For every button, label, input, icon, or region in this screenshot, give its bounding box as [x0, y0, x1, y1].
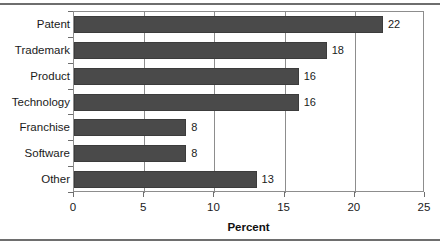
- bar-row: 16: [74, 64, 425, 90]
- category-label: Franchise: [0, 120, 70, 134]
- bar-row: 18: [74, 38, 425, 64]
- category-label: Technology: [0, 95, 70, 109]
- x-axis-tick: [143, 192, 144, 197]
- x-axis-title: Percent: [73, 220, 424, 234]
- x-axis-tick: [284, 192, 285, 197]
- bar-value-label: 16: [304, 67, 316, 85]
- x-axis-tick: [424, 192, 425, 197]
- x-axis-tick-label: 25: [404, 200, 440, 214]
- bar-row: 22: [74, 12, 425, 38]
- x-axis-tick-label: 0: [53, 200, 93, 214]
- x-axis-tick-label: 15: [264, 200, 304, 214]
- x-axis-tick-label: 10: [193, 200, 233, 214]
- bar-row: 13: [74, 167, 425, 193]
- bar-value-label: 13: [262, 170, 274, 188]
- category-label: Trademark: [0, 43, 70, 57]
- bar: [74, 171, 257, 188]
- category-label: Patent: [0, 17, 70, 31]
- category-label: Product: [0, 69, 70, 83]
- bar-series: 221816168813: [74, 12, 425, 193]
- plot-area: 221816168813: [73, 11, 424, 192]
- x-axis-tick-label: 5: [123, 200, 163, 214]
- x-axis-tick-label: 20: [334, 200, 374, 214]
- bar-row: 8: [74, 141, 425, 167]
- x-axis-tick: [213, 192, 214, 197]
- bar: [74, 42, 327, 59]
- bar: [74, 119, 186, 136]
- category-label: Other: [0, 172, 70, 186]
- x-axis-tick: [73, 192, 74, 197]
- bar-value-label: 22: [388, 15, 400, 33]
- bar-row: 8: [74, 115, 425, 141]
- bar: [74, 145, 186, 162]
- bar-value-label: 8: [191, 118, 197, 136]
- bar: [74, 94, 299, 111]
- bar-value-label: 18: [332, 41, 344, 59]
- bar-chart-figure: PatentTrademarkProductTechnologyFranchis…: [0, 0, 440, 244]
- bar-row: 16: [74, 90, 425, 116]
- top-divider-rule: [0, 3, 440, 5]
- bar-value-label: 16: [304, 93, 316, 111]
- bar-value-label: 8: [191, 144, 197, 162]
- bar: [74, 68, 299, 85]
- category-axis-labels: PatentTrademarkProductTechnologyFranchis…: [0, 11, 70, 192]
- category-label: Software: [0, 146, 70, 160]
- x-axis-tick: [354, 192, 355, 197]
- bar: [74, 16, 383, 33]
- bottom-divider-rule: [0, 239, 440, 241]
